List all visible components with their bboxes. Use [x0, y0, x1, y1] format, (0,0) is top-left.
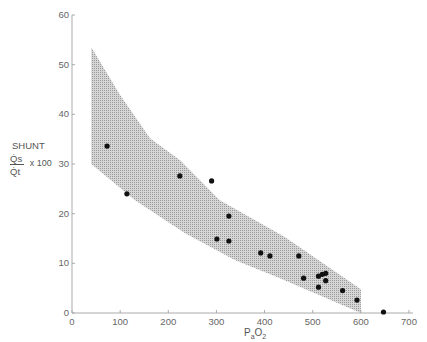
x-tick-label: 0 — [69, 316, 74, 327]
y-axis-label: SHUNT Q̇s Q̇t x 100 — [10, 141, 52, 177]
data-point — [177, 173, 182, 178]
fraction-numerator: Q̇s — [10, 154, 24, 166]
y-tick-label: 20 — [58, 208, 69, 219]
y-axis-label-shunt: SHUNT — [12, 141, 52, 151]
x-label-p: P — [244, 327, 251, 338]
y-tick-label: 0 — [64, 307, 69, 318]
data-point — [354, 298, 359, 303]
data-point — [226, 238, 231, 243]
data-point — [209, 178, 214, 183]
x-tick-label: 100 — [112, 316, 128, 327]
data-point — [323, 278, 328, 283]
data-point — [258, 250, 263, 255]
data-point — [267, 253, 272, 258]
data-point — [214, 236, 219, 241]
y-tick-label: 40 — [58, 108, 69, 119]
shunt-fraction: Q̇s Q̇t — [10, 154, 24, 177]
multiplier: x 100 — [30, 159, 52, 168]
y-tick-label: 60 — [58, 9, 69, 20]
x-tick-label: 200 — [160, 316, 176, 327]
x-axis-label: PaO2 — [244, 327, 266, 340]
data-point — [301, 276, 306, 281]
x-tick-label: 500 — [305, 316, 321, 327]
x-tick-label: 600 — [353, 316, 369, 327]
fraction-denominator: Q̇t — [10, 165, 24, 177]
data-point — [323, 271, 328, 276]
data-point — [381, 309, 386, 314]
data-point — [226, 214, 231, 219]
scatter-chart: 01002003004005006007000102030405060 — [0, 0, 427, 342]
x-label-sub-2: 2 — [262, 333, 266, 340]
y-tick-label: 10 — [58, 257, 69, 268]
data-point — [316, 285, 321, 290]
data-point — [340, 288, 345, 293]
y-tick-label: 30 — [58, 158, 69, 169]
data-point — [124, 191, 129, 196]
y-tick-label: 50 — [58, 59, 69, 70]
x-tick-label: 700 — [401, 316, 417, 327]
data-point — [296, 253, 301, 258]
data-point — [105, 144, 110, 149]
x-tick-label: 300 — [208, 316, 224, 327]
x-tick-label: 400 — [257, 316, 273, 327]
